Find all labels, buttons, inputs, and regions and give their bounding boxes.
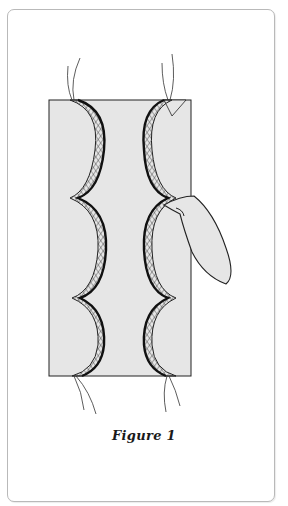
fabric-rectangle xyxy=(49,100,191,376)
figure-caption: Figure 1 xyxy=(0,428,288,443)
top-threads xyxy=(68,54,174,100)
bottom-threads xyxy=(74,376,180,414)
